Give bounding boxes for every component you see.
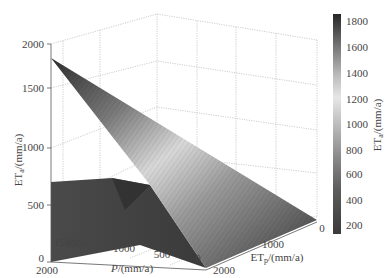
svg-text:2000: 2000 bbox=[22, 38, 45, 50]
svg-text:1600: 1600 bbox=[346, 41, 369, 53]
etp-tick-2000: 2000 bbox=[213, 264, 236, 276]
svg-text:800: 800 bbox=[346, 144, 363, 156]
svg-text:1000: 1000 bbox=[346, 118, 369, 130]
surface-plot-figure: 2000 1500 1000 500 0 ETa/(mm/a) 2000 150… bbox=[0, 0, 390, 278]
p-tick-0: 0 bbox=[195, 252, 201, 264]
surface bbox=[51, 58, 317, 268]
colorbar: 1800 1600 1400 1200 1000 800 600 400 200 bbox=[333, 14, 369, 234]
p-tick-1000: 1000 bbox=[113, 242, 136, 254]
svg-text:0: 0 bbox=[39, 252, 45, 264]
svg-text:500: 500 bbox=[28, 199, 45, 211]
etp-axis-label: ETp/(mm/a) bbox=[251, 251, 304, 265]
p-axis-label: P/(mm/a) bbox=[110, 262, 154, 275]
svg-text:1000: 1000 bbox=[22, 141, 45, 153]
svg-text:1500: 1500 bbox=[65, 237, 88, 249]
svg-text:1500: 1500 bbox=[22, 82, 45, 94]
z-axis-ticks: 2000 1500 1000 500 0 bbox=[22, 38, 45, 264]
etp-tick-0: 0 bbox=[319, 222, 325, 234]
p-axis-ticks-2: 1500 bbox=[65, 237, 88, 249]
svg-text:1200: 1200 bbox=[346, 93, 369, 105]
svg-text:1400: 1400 bbox=[346, 67, 369, 79]
z-axis-label: ETa/(mm/a) bbox=[12, 133, 26, 186]
etp-tick-1000: 1000 bbox=[262, 238, 285, 250]
svg-text:400: 400 bbox=[346, 194, 363, 206]
svg-text:600: 600 bbox=[346, 168, 363, 180]
svg-text:200: 200 bbox=[346, 219, 363, 231]
p-tick-500: 500 bbox=[154, 248, 171, 260]
svg-text:2000: 2000 bbox=[36, 264, 59, 276]
svg-text:1800: 1800 bbox=[346, 15, 369, 27]
colorbar-label: ETa/(mm/a) bbox=[371, 98, 385, 151]
